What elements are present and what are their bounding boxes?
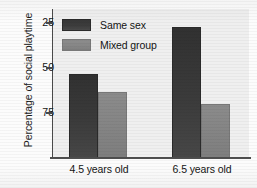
bar-mixed-group-6-5 xyxy=(201,104,230,158)
chart-legend: Same sex Mixed group xyxy=(62,16,157,56)
bar-same-sex-4-5 xyxy=(69,74,98,158)
legend-swatch-icon xyxy=(62,39,91,51)
x-axis-group-label: 4.5 years old xyxy=(48,163,150,175)
legend-item-same-sex: Same sex xyxy=(62,16,157,33)
legend-label: Same sex xyxy=(100,19,146,31)
x-axis-group-label: 6.5 years old xyxy=(151,163,253,175)
bar-same-sex-6-5 xyxy=(172,27,201,158)
bar-chart-figure: Percentage of social playtime 75 50 25 S… xyxy=(0,0,257,188)
x-axis-line xyxy=(50,157,251,159)
legend-item-mixed-group: Mixed group xyxy=(62,36,157,53)
legend-swatch-icon xyxy=(62,19,91,31)
legend-label: Mixed group xyxy=(100,39,157,51)
bar-mixed-group-4-5 xyxy=(98,92,127,158)
